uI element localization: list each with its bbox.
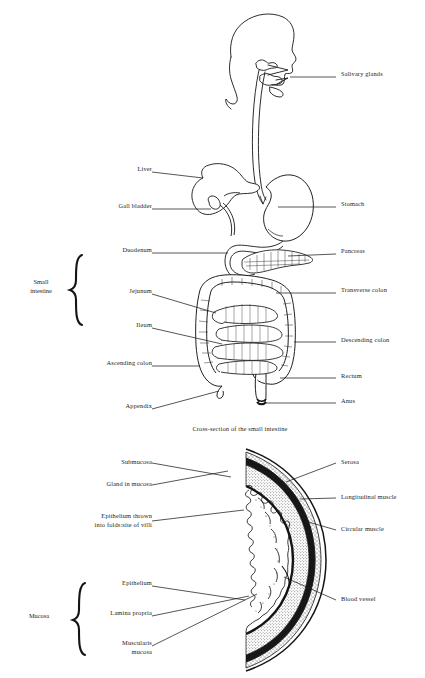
diagram-canvas: Liver Gall bladder Duodenum Jejunum Ileu… <box>0 0 425 678</box>
label-ileum: Ileum <box>82 321 152 330</box>
label-submucosa: Submucosa <box>62 458 152 467</box>
label-salivary-glands: Salivary glands <box>341 70 425 79</box>
label-jejunum: Jejunum <box>76 287 152 296</box>
label-small-intestine: Small intestine <box>14 278 68 295</box>
label-duodenum: Duodenum <box>72 246 152 255</box>
label-mucosa: Mucosa <box>12 612 66 621</box>
cross-section-caption: Cross-section of the small intestine <box>140 425 340 432</box>
label-gall-bladder: Gall bladder <box>68 202 152 211</box>
label-ascending-colon: Ascending colon <box>62 359 152 368</box>
label-liver: Liver <box>78 165 152 174</box>
label-transverse-colon: Transverse colon <box>341 286 425 295</box>
label-serosa: Serosa <box>341 458 425 467</box>
label-stomach: Stomach <box>341 200 425 209</box>
label-appendix: Appendix <box>74 402 152 411</box>
liver-and-gallbladder <box>192 164 260 236</box>
label-muscularis-mucosa: Muscularis mucosa <box>62 639 152 656</box>
small-intestine-coils <box>212 304 283 375</box>
label-rectum: Rectum <box>341 372 425 381</box>
label-anus: Anus <box>341 397 425 406</box>
label-blood-vessel: Blood vessel <box>341 595 425 604</box>
label-gland-in-mucosa: Gland in mucosa <box>52 480 152 489</box>
label-epithelium-folds: Epithelium thrown into folds:site of vil… <box>42 512 152 529</box>
label-pancreas: Pancreas <box>341 247 425 256</box>
stomach <box>264 175 314 241</box>
label-lamina-propria: Lamina propria <box>52 609 152 618</box>
cross-section-wall <box>245 449 326 671</box>
label-descending-colon: Descending colon <box>341 336 425 345</box>
label-epithelium: Epithelium <box>62 579 152 588</box>
label-circular-muscle: Circular muscle <box>341 525 425 534</box>
label-longitudinal-muscle: Longitudinal muscle <box>341 493 425 502</box>
